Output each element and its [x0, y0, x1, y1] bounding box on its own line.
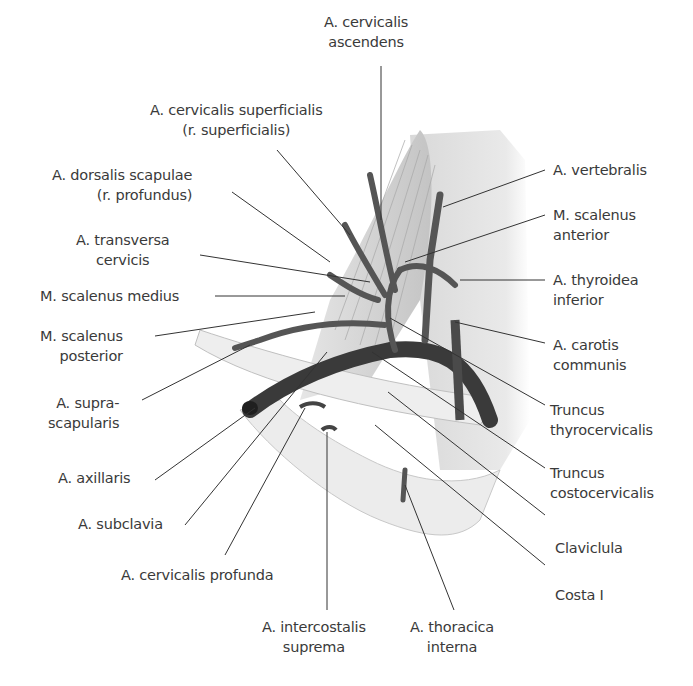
label-truncus-thyrocervicalis: Truncus thyrocervicalis	[550, 400, 653, 440]
label-claviclula: Claviclula	[555, 538, 623, 558]
label-a-cervicalis-profunda: A. cervicalis profunda	[121, 565, 273, 585]
label-line: (r. profundus)	[52, 185, 192, 205]
label-line: Truncus	[550, 463, 654, 483]
label-a-vertebralis: A. vertebralis	[553, 160, 647, 180]
label-line: A. dorsalis scapulae	[52, 165, 192, 185]
label-line: A. cervicalis profunda	[121, 565, 273, 585]
label-line: Claviclula	[555, 538, 623, 558]
label-line: cervicis	[76, 250, 169, 270]
label-line: Costa I	[555, 585, 604, 605]
label-a-cervicalis-superficialis: A. cervicalis superficialis (r. superfic…	[150, 100, 323, 140]
label-m-scalenus-anterior: M. scalenus anterior	[553, 205, 636, 245]
label-line: interna	[410, 637, 494, 657]
label-a-suprascapularis: A. supra- scapularis	[48, 393, 119, 433]
label-a-dorsalis-scapulae: A. dorsalis scapulae (r. profundus)	[52, 165, 192, 205]
label-line: A. thoracica	[410, 617, 494, 637]
label-a-intercostalis-suprema: A. intercostalis suprema	[262, 617, 366, 657]
label-line: M. scalenus medius	[40, 286, 179, 306]
label-line: suprema	[262, 637, 366, 657]
label-line: Truncus	[550, 400, 653, 420]
label-line: scapularis	[48, 413, 119, 433]
label-line: M. scalenus	[553, 205, 636, 225]
label-m-scalenus-posterior: M. scalenus posterior	[40, 326, 123, 366]
label-line: (r. superficialis)	[150, 120, 323, 140]
label-line: A. cervicalis	[324, 12, 408, 32]
label-line: costocervicalis	[550, 483, 654, 503]
carotid-artery	[455, 320, 460, 420]
label-line: ascendens	[324, 32, 408, 52]
label-a-transversa-cervicis: A. transversa cervicis	[76, 230, 169, 270]
label-line: A. axillaris	[58, 468, 130, 488]
label-line: A. thyroidea	[553, 270, 639, 290]
label-line: thyrocervicalis	[550, 420, 653, 440]
label-line: A. subclavia	[78, 514, 163, 534]
label-truncus-costocervicalis: Truncus costocervicalis	[550, 463, 654, 503]
label-m-scalenus-medius: M. scalenus medius	[40, 286, 179, 306]
label-line: posterior	[40, 346, 123, 366]
label-line: M. scalenus	[40, 326, 123, 346]
label-line: A. vertebralis	[553, 160, 647, 180]
label-line: A. cervicalis superficialis	[150, 100, 323, 120]
label-line: A. carotis	[553, 335, 626, 355]
label-a-subclavia: A. subclavia	[78, 514, 163, 534]
label-a-carotis-communis: A. carotis communis	[553, 335, 626, 375]
label-line: anterior	[553, 225, 636, 245]
label-line: inferior	[553, 290, 639, 310]
label-a-thoracica-interna: A. thoracica interna	[410, 617, 494, 657]
label-a-cervicalis-ascendens: A. cervicalis ascendens	[324, 12, 408, 52]
label-a-thyroidea-inferior: A. thyroidea inferior	[553, 270, 639, 310]
label-line: A. transversa	[76, 230, 169, 250]
label-line: communis	[553, 355, 626, 375]
label-line: A. supra-	[48, 393, 119, 413]
label-costa-i: Costa I	[555, 585, 604, 605]
label-line: A. intercostalis	[262, 617, 366, 637]
label-a-axillaris: A. axillaris	[58, 468, 130, 488]
